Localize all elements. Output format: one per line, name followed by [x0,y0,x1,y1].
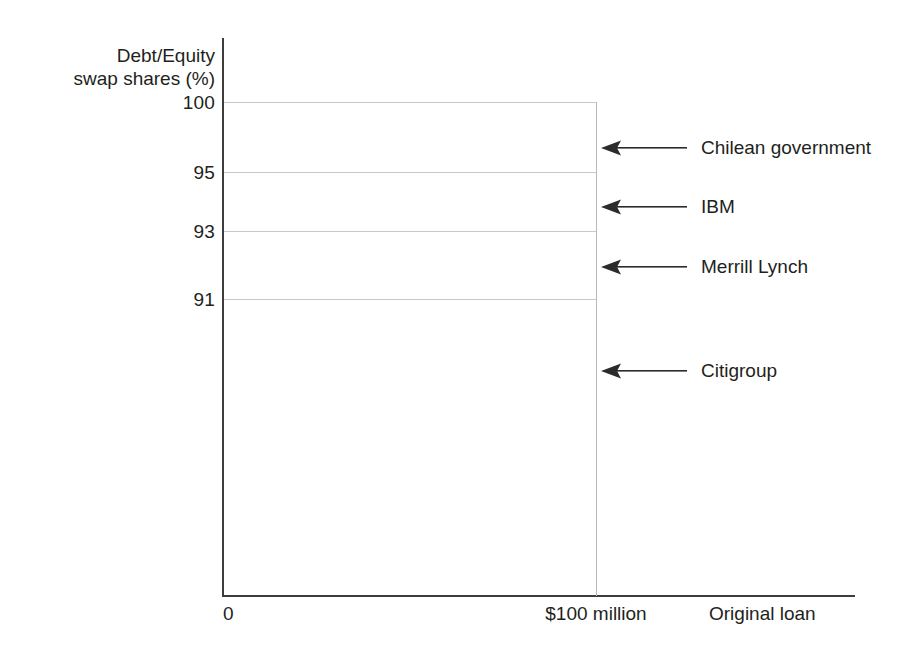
debt-equity-swap-chart: Debt/Equity swap shares (%) 100 95 93 91… [0,0,912,658]
y-axis-title: Debt/Equity swap shares (%) [0,44,215,90]
arrow-left-icon [601,196,687,218]
annotation-ibm: IBM [601,194,735,220]
y-axis-title-line-1: Debt/Equity [0,44,215,67]
y-tick-label-91: 91 [95,290,215,309]
gridline-91 [223,299,597,300]
annotation-merrill-lynch: Merrill Lynch [601,254,808,280]
annotation-label: Chilean government [701,137,871,159]
y-axis-title-line-2: swap shares (%) [0,67,215,90]
annotation-citigroup: Citigroup [601,358,777,384]
y-tick-label-95: 95 [95,163,215,182]
y-axis-line [222,38,224,597]
annotation-label: IBM [701,196,735,218]
x-axis-title: Original loan [709,603,816,625]
x-tick-label-zero: 0 [223,603,234,625]
arrow-left-icon [601,137,687,159]
annotation-label: Citigroup [701,360,777,382]
gridline-93 [223,231,597,232]
y-tick-label-93: 93 [95,222,215,241]
arrow-left-icon [601,360,687,382]
x-axis-line [222,595,855,597]
arrow-left-icon [601,256,687,278]
loan-boundary-line [596,102,597,596]
annotation-label: Merrill Lynch [701,256,808,278]
x-tick-label-amount: $100 million [545,603,646,625]
y-tick-label-100: 100 [95,93,215,112]
gridline-95 [223,172,597,173]
annotation-chilean-government: Chilean government [601,135,871,161]
gridline-100 [223,102,597,103]
